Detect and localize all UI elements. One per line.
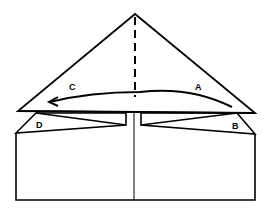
label-d: D	[36, 120, 43, 130]
label-a: A	[195, 82, 202, 92]
base-rectangle	[16, 133, 255, 200]
origami-diagram: C A D B	[0, 0, 267, 217]
left-flap-d	[16, 113, 126, 133]
label-c: C	[69, 82, 76, 92]
triangle-top-flap	[18, 14, 255, 113]
label-b: B	[232, 121, 239, 131]
